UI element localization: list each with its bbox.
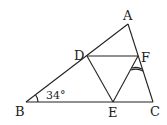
angle-arc-F-outer xyxy=(131,69,143,71)
label-B: B xyxy=(15,104,25,119)
label-F: F xyxy=(141,50,150,65)
segment-AB xyxy=(26,24,128,102)
segment-EF xyxy=(113,56,138,102)
label-A: A xyxy=(122,8,133,23)
angle-arc-B xyxy=(36,95,38,102)
triangle-figure: A B C D E F 34° xyxy=(0,0,167,125)
label-C: C xyxy=(150,104,160,119)
label-E: E xyxy=(108,105,118,120)
label-D: D xyxy=(74,48,84,63)
segment-DE xyxy=(87,56,113,102)
angle-label-B: 34° xyxy=(46,89,66,102)
geometry-diagram: A B C D E F 34° xyxy=(0,0,167,125)
